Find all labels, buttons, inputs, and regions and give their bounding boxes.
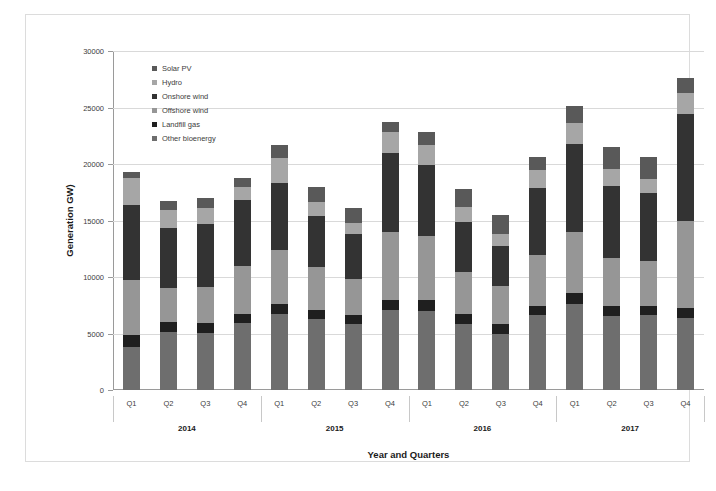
bar-segment[interactable] (677, 78, 694, 93)
bar-segment[interactable] (308, 310, 325, 320)
bar-segment[interactable] (234, 187, 251, 199)
bar-segment[interactable] (529, 255, 546, 306)
bar-segment[interactable] (603, 306, 620, 316)
bar-segment[interactable] (640, 179, 657, 193)
bar-segment[interactable] (382, 300, 399, 310)
bar-segment[interactable] (603, 316, 620, 390)
bar-segment[interactable] (345, 223, 362, 234)
bar-segment[interactable] (123, 335, 140, 347)
bar-segment[interactable] (677, 93, 694, 113)
bar-segment[interactable] (640, 306, 657, 316)
bar-segment[interactable] (492, 234, 509, 246)
bar-segment[interactable] (492, 286, 509, 324)
bar-segment[interactable] (640, 315, 657, 390)
bar-segment[interactable] (529, 188, 546, 255)
bar-segment[interactable] (345, 324, 362, 390)
bar-segment[interactable] (123, 347, 140, 391)
bar-stack[interactable] (603, 147, 620, 390)
bar-segment[interactable] (566, 232, 583, 293)
legend-item[interactable]: Other bioenergy (152, 131, 216, 145)
bar-segment[interactable] (160, 201, 177, 209)
bar-segment[interactable] (382, 153, 399, 232)
bar-segment[interactable] (603, 169, 620, 186)
bar-segment[interactable] (271, 314, 288, 390)
bar-stack[interactable] (271, 145, 288, 390)
bar-segment[interactable] (197, 287, 214, 324)
bar-segment[interactable] (455, 189, 472, 207)
bar-stack[interactable] (234, 178, 251, 390)
bar-stack[interactable] (566, 106, 583, 390)
bar-segment[interactable] (603, 186, 620, 258)
bar-segment[interactable] (492, 246, 509, 286)
bar-segment[interactable] (308, 202, 325, 216)
bar-segment[interactable] (271, 304, 288, 314)
bar-segment[interactable] (382, 232, 399, 300)
bar-segment[interactable] (345, 208, 362, 223)
bar-segment[interactable] (271, 250, 288, 303)
bar-segment[interactable] (197, 224, 214, 287)
bar-segment[interactable] (345, 234, 362, 279)
bar-segment[interactable] (123, 178, 140, 206)
bar-segment[interactable] (529, 315, 546, 390)
bar-segment[interactable] (197, 198, 214, 208)
bar-segment[interactable] (677, 221, 694, 308)
bar-segment[interactable] (455, 207, 472, 222)
bar-segment[interactable] (197, 333, 214, 390)
bar-segment[interactable] (640, 193, 657, 261)
bar-segment[interactable] (677, 308, 694, 318)
bar-segment[interactable] (640, 261, 657, 306)
bar-segment[interactable] (345, 279, 362, 315)
bar-segment[interactable] (418, 145, 435, 165)
bar-segment[interactable] (418, 311, 435, 390)
bar-segment[interactable] (640, 157, 657, 179)
bar-stack[interactable] (345, 208, 362, 390)
bar-segment[interactable] (234, 323, 251, 390)
bar-segment[interactable] (566, 293, 583, 304)
bar-stack[interactable] (418, 132, 435, 390)
bar-segment[interactable] (234, 266, 251, 314)
bar-stack[interactable] (640, 157, 657, 390)
bar-segment[interactable] (677, 318, 694, 390)
bar-segment[interactable] (123, 280, 140, 334)
legend-item[interactable]: Landfill gas (152, 117, 216, 131)
bar-stack[interactable] (308, 187, 325, 390)
bar-segment[interactable] (529, 170, 546, 189)
legend-item[interactable]: Offshore wind (152, 103, 216, 117)
bar-segment[interactable] (234, 314, 251, 323)
bar-segment[interactable] (308, 267, 325, 309)
bar-stack[interactable] (197, 198, 214, 390)
bar-segment[interactable] (455, 324, 472, 390)
bar-segment[interactable] (345, 315, 362, 325)
bar-segment[interactable] (566, 304, 583, 390)
bar-segment[interactable] (197, 323, 214, 333)
bar-segment[interactable] (271, 158, 288, 183)
bar-segment[interactable] (677, 114, 694, 221)
bar-stack[interactable] (677, 78, 694, 390)
bar-stack[interactable] (123, 172, 140, 390)
bar-segment[interactable] (492, 324, 509, 334)
bar-segment[interactable] (492, 334, 509, 391)
bar-stack[interactable] (382, 122, 399, 390)
bar-segment[interactable] (160, 288, 177, 322)
bar-segment[interactable] (160, 210, 177, 229)
bar-segment[interactable] (271, 183, 288, 250)
legend-item[interactable]: Solar PV (152, 61, 216, 75)
bar-segment[interactable] (566, 144, 583, 232)
bar-segment[interactable] (529, 157, 546, 170)
bar-segment[interactable] (603, 258, 620, 306)
bar-segment[interactable] (418, 300, 435, 311)
bar-stack[interactable] (455, 189, 472, 390)
bar-segment[interactable] (160, 332, 177, 390)
bar-segment[interactable] (455, 314, 472, 324)
bar-segment[interactable] (382, 310, 399, 390)
bar-segment[interactable] (455, 222, 472, 272)
bar-segment[interactable] (271, 145, 288, 157)
bar-segment[interactable] (529, 306, 546, 316)
bar-segment[interactable] (234, 178, 251, 187)
bar-segment[interactable] (603, 147, 620, 168)
legend-item[interactable]: Onshore wind (152, 89, 216, 103)
bar-segment[interactable] (234, 200, 251, 267)
bar-segment[interactable] (308, 187, 325, 202)
bar-segment[interactable] (566, 106, 583, 122)
bar-stack[interactable] (529, 157, 546, 390)
